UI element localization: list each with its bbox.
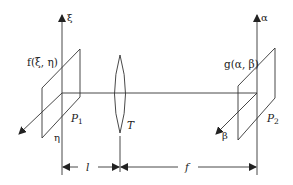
output-function-label: g(α, β): [224, 58, 259, 70]
beta-axis: [216, 93, 257, 134]
input-function-label: f(ξ, η): [27, 56, 58, 68]
output-plane-p2: [216, 15, 275, 175]
optical-system-diagram: ξ f(ξ, η) P1 η T α g(α, β) P2 β l f: [0, 0, 293, 185]
p2-label: P2: [266, 112, 279, 126]
dimension-l-label: l: [86, 161, 89, 173]
beta-axis-label: β: [222, 130, 228, 141]
p1-label: P1: [70, 112, 83, 126]
dimension-f-label: f: [184, 161, 191, 173]
lens-t: [115, 55, 126, 172]
input-plane-p1: [19, 15, 80, 175]
xi-axis-label: ξ: [67, 12, 73, 23]
lens-label: T: [127, 119, 135, 131]
alpha-axis-label: α: [261, 12, 268, 23]
eta-axis: [19, 93, 62, 134]
lens-shape: [115, 55, 126, 133]
eta-axis-label: η: [54, 132, 60, 143]
